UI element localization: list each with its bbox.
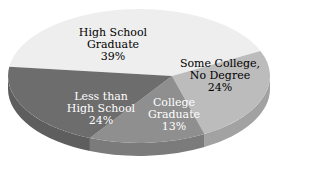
label-value: 39% — [79, 51, 147, 63]
label-value: 24% — [67, 115, 135, 127]
label-high-school-graduate: High School Graduate 39% — [79, 27, 147, 63]
label-some-college: Some College, No Degree 24% — [180, 58, 260, 94]
label-college-graduate: College Graduate 13% — [148, 97, 200, 133]
label-value: 24% — [180, 82, 260, 94]
label-value: 13% — [148, 121, 200, 133]
label-less-than-high-school: Less than High School 24% — [67, 91, 135, 127]
